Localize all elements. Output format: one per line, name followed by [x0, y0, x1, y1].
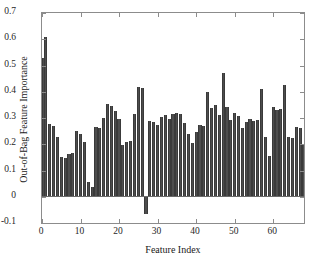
bar	[299, 128, 302, 197]
bar	[83, 142, 86, 197]
x-tick-mark	[81, 13, 82, 17]
bar	[183, 123, 186, 197]
bar	[279, 109, 282, 197]
bar	[98, 128, 101, 197]
x-tick-mark	[196, 219, 197, 223]
bar	[152, 122, 155, 196]
bar	[248, 119, 251, 197]
bar	[87, 182, 90, 197]
bar	[114, 111, 117, 197]
bar	[141, 88, 144, 197]
bar	[241, 128, 244, 197]
y-tick-label: 0.4	[0, 86, 16, 96]
bar	[233, 113, 236, 197]
x-tick-label: 50	[214, 227, 254, 237]
x-tick-mark	[158, 219, 159, 223]
x-tick-mark	[158, 13, 159, 17]
y-tick-mark	[300, 197, 304, 198]
bar	[218, 115, 221, 197]
x-tick-mark	[81, 219, 82, 223]
bar	[202, 126, 205, 197]
bar	[283, 85, 286, 196]
y-tick-label: 0.6	[0, 33, 16, 43]
y-tick-mark	[42, 39, 46, 40]
bar	[117, 119, 120, 197]
bar	[106, 104, 109, 196]
y-tick-label: 0.1	[0, 165, 16, 175]
plot-area	[41, 12, 305, 224]
y-tick-label: 0.5	[0, 60, 16, 70]
y-tick-mark	[300, 66, 304, 67]
bar	[125, 142, 128, 197]
bar	[214, 105, 217, 196]
x-tick-label: 10	[60, 227, 100, 237]
bar	[110, 106, 113, 196]
y-tick-mark	[42, 66, 46, 67]
bar	[148, 121, 151, 197]
bar	[195, 132, 198, 197]
bar	[144, 197, 147, 214]
bar	[287, 137, 290, 197]
bar	[272, 107, 275, 197]
bar	[210, 108, 213, 196]
bar	[275, 110, 278, 196]
y-tick-mark	[300, 171, 304, 172]
bar	[225, 107, 228, 197]
x-tick-label: 20	[98, 227, 138, 237]
y-tick-mark	[42, 197, 46, 198]
x-tick-mark	[273, 219, 274, 223]
bar	[291, 138, 294, 197]
bar	[260, 89, 263, 197]
y-tick-label: 0.7	[0, 7, 16, 17]
bar	[129, 141, 132, 197]
bar-series	[42, 13, 304, 223]
bar	[48, 124, 51, 197]
bar	[60, 157, 63, 197]
x-tick-mark	[119, 219, 120, 223]
bar	[175, 113, 178, 197]
y-tick-mark	[300, 92, 304, 93]
y-tick-mark	[300, 13, 304, 14]
y-tick-mark	[42, 144, 46, 145]
bar	[191, 143, 194, 197]
x-tick-label: 40	[175, 227, 215, 237]
bar	[179, 114, 182, 197]
bar	[56, 137, 59, 197]
y-tick-mark	[300, 39, 304, 40]
y-tick-label: 0.2	[0, 138, 16, 148]
bar	[75, 131, 78, 197]
x-axis-title: Feature Index	[41, 244, 305, 255]
bar	[52, 126, 55, 196]
x-tick-mark	[196, 13, 197, 17]
bar	[206, 92, 209, 196]
y-tick-mark	[300, 144, 304, 145]
bar	[79, 134, 82, 197]
bar	[94, 127, 97, 197]
y-tick-mark	[42, 223, 46, 224]
y-axis-title: Out-of-Bag Feature Importance	[18, 14, 29, 226]
bar	[133, 114, 136, 197]
bar	[102, 118, 105, 196]
bar	[64, 158, 67, 197]
bar	[252, 121, 255, 197]
zero-baseline	[42, 196, 304, 197]
x-tick-mark	[42, 219, 43, 223]
bar	[91, 187, 94, 197]
x-tick-mark	[235, 13, 236, 17]
x-tick-label: 0	[21, 227, 61, 237]
x-tick-label: 60	[252, 227, 292, 237]
y-tick-label: 0	[0, 191, 16, 201]
bar	[222, 73, 225, 197]
bar	[164, 115, 167, 197]
y-tick-mark	[42, 92, 46, 93]
bar	[295, 127, 298, 197]
bar	[71, 153, 74, 197]
bar	[67, 154, 70, 197]
x-tick-mark	[273, 13, 274, 17]
x-tick-mark	[235, 219, 236, 223]
bar	[229, 120, 232, 196]
x-tick-label: 30	[137, 227, 177, 237]
figure-canvas: -0.100.10.20.30.40.50.60.7 0102030405060…	[0, 0, 322, 270]
y-tick-mark	[300, 118, 304, 119]
bar	[245, 122, 248, 196]
